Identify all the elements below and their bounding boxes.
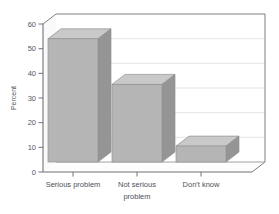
bar-side-face [98,29,111,162]
y-tick-label-40: 40 [28,69,36,78]
bar-front-face [112,84,162,162]
bar-front-face [48,39,98,162]
chart-svg: 0 10 20 30 40 50 60 Percent [0,0,279,214]
bar-chart: 0 10 20 30 40 50 60 Percent [0,0,279,214]
floor [43,162,265,172]
x-category-label-2-line-0: Don't know [183,180,220,189]
bar-not-serious-problem [112,74,175,162]
y-axis-title: Percent [10,86,17,110]
y-tick-label-10: 10 [28,143,36,152]
bar-serious-problem [48,29,111,162]
bar-front-face [176,146,226,162]
x-category-label-0-line-0: Serious problem [46,180,101,189]
x-category-label-1-line-0: Not serious [118,180,156,189]
y-tick-label-60: 60 [28,20,36,29]
y-tick-label-30: 30 [28,94,36,103]
y-tick-label-0: 0 [32,168,36,177]
bar-side-face [162,74,175,162]
y-tick-label-20: 20 [28,118,36,127]
bar-dont-know [176,136,239,162]
y-tick-label-50: 50 [28,44,36,53]
x-category-label-1-line-1: problem [123,192,150,201]
